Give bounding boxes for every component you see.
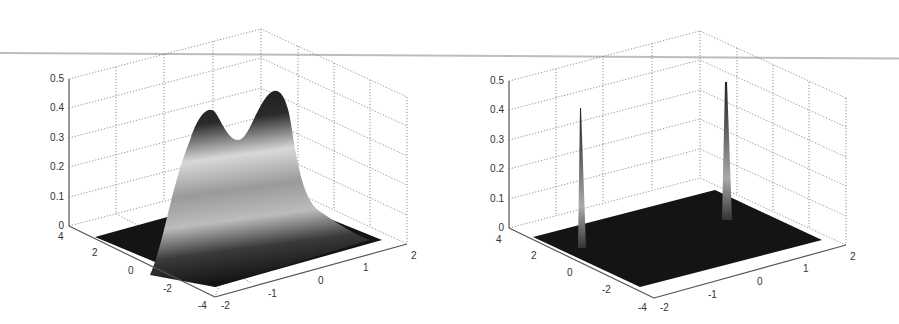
svg-text:-4: -4 [638,302,647,313]
svg-text:-4: -4 [198,300,207,311]
svg-text:4: 4 [58,231,64,242]
surface [533,82,822,287]
svg-text:2: 2 [531,250,537,261]
svg-text:-2: -2 [163,283,172,294]
svg-text:0: 0 [567,267,573,278]
svg-text:0.2: 0.2 [50,161,64,172]
svg-text:0.3: 0.3 [50,132,64,143]
svg-text:2: 2 [411,250,417,261]
svg-text:0.1: 0.1 [50,191,64,202]
svg-text:2: 2 [850,251,856,262]
z-tick-labels: 0.5 0.4 0.3 0.2 0.1 0 [50,73,64,231]
surface [95,91,382,287]
svg-text:0.4: 0.4 [490,104,504,115]
svg-text:0: 0 [58,220,64,231]
surface-plot-spikes: 0.5 0.4 0.3 0.2 0.1 0 4 2 0 -2 -4 -2 -1 … [450,0,899,324]
svg-text:-2: -2 [602,284,611,295]
svg-text:-2: -2 [221,300,230,311]
svg-text:-2: -2 [660,302,669,313]
svg-text:2: 2 [92,247,98,258]
svg-text:0.2: 0.2 [490,163,504,174]
svg-text:0.1: 0.1 [490,193,504,204]
svg-text:-1: -1 [708,289,717,300]
svg-text:0.3: 0.3 [490,134,504,145]
svg-text:4: 4 [496,234,502,245]
svg-text:0.4: 0.4 [50,102,64,113]
svg-text:0: 0 [498,222,504,233]
svg-text:0.5: 0.5 [490,75,504,86]
z-tick-labels: 0.5 0.4 0.3 0.2 0.1 0 [490,75,504,233]
svg-text:-1: -1 [268,288,277,299]
svg-text:0: 0 [757,276,763,287]
svg-text:1: 1 [363,262,369,273]
svg-text:0: 0 [318,275,324,286]
surface-plot-bimodal: 0.5 0.4 0.3 0.2 0.1 0 4 2 0 -2 -4 -2 -1 … [0,0,450,324]
svg-text:0: 0 [128,265,134,276]
svg-text:0.5: 0.5 [50,73,64,84]
svg-text:1: 1 [803,263,809,274]
